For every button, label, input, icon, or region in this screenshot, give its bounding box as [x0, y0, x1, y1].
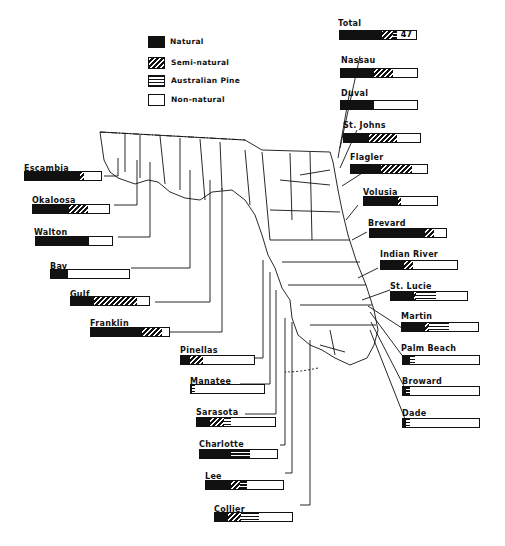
segment-natural [341, 69, 374, 77]
segment-non [393, 69, 417, 77]
county-bar-okaloosa [32, 204, 110, 214]
segment-natural [370, 229, 425, 237]
total-label: Total [338, 19, 361, 28]
segment-semi [231, 481, 240, 489]
county-label-dade: Dade [402, 409, 426, 418]
county-bar-martin [401, 322, 479, 332]
county-label-nassau: Nassau [341, 56, 376, 65]
segment-semi [404, 261, 413, 269]
county-bar-pinellas [180, 355, 255, 365]
segment-non [374, 101, 417, 109]
county-bar-bay [50, 269, 130, 279]
segment-natural [344, 134, 369, 142]
county-label-duval: Duval [341, 89, 368, 98]
segment-natural [351, 165, 381, 173]
segment-semi [142, 328, 162, 336]
segment-non [89, 237, 112, 245]
legend-semi-swatch [148, 57, 165, 69]
county-bar-volusia [363, 196, 438, 206]
county-bar-brevard [369, 228, 447, 238]
segment-semi [69, 205, 89, 213]
legend-semi-label: Semi-natural [171, 58, 229, 67]
segment-non [68, 270, 129, 278]
county-label-martin: Martin [401, 312, 432, 321]
county-bar-broward [402, 386, 480, 396]
segment-natural [33, 205, 69, 213]
segment-non [259, 513, 292, 521]
segment-non [434, 229, 446, 237]
segment-semi [374, 69, 392, 77]
segment-semi [94, 297, 137, 305]
segment-non [195, 385, 264, 393]
county-bar-stjohns [343, 133, 421, 143]
segment-non [397, 134, 420, 142]
segment-semi [381, 165, 411, 173]
segment-semi [382, 31, 393, 39]
legend-non-swatch [148, 94, 165, 106]
county-label-brevard: Brevard [368, 219, 406, 228]
segment-natural [364, 197, 398, 205]
county-label-broward: Broward [402, 377, 442, 386]
county-bar-indianriver [380, 260, 458, 270]
segment-pine [429, 323, 450, 331]
segment-natural [51, 270, 68, 278]
county-bar-manatee [190, 384, 265, 394]
county-bar-collier [214, 512, 293, 522]
legend-non-label: Non-natural [171, 95, 225, 104]
county-label-sarasota: Sarasota [196, 408, 238, 417]
legend-natural-swatch [148, 36, 165, 48]
legend-pine-swatch [148, 75, 165, 87]
segment-semi [190, 356, 203, 364]
segment-natural [91, 328, 142, 336]
segment-natural [215, 513, 228, 521]
county-bar-flagler [350, 164, 428, 174]
county-label-charlotte: Charlotte [199, 440, 244, 449]
segment-natural [25, 172, 80, 180]
segment-semi [369, 134, 397, 142]
county-bar-charlotte [199, 449, 278, 459]
legend-natural-label: Natural [170, 37, 204, 46]
total-bar: 47 [339, 30, 417, 40]
segment-natural [402, 323, 425, 331]
county-label-stjohns: St. Johns [343, 121, 386, 130]
segment-non [449, 323, 478, 331]
segment-non [162, 328, 169, 336]
segment-natural [197, 418, 210, 426]
county-label-flagler: Flagler [350, 153, 384, 162]
segment-non [137, 297, 149, 305]
segment-non [401, 197, 437, 205]
segment-natural [391, 292, 414, 300]
segment-pine [241, 513, 259, 521]
segment-non [247, 481, 283, 489]
segment-pine [231, 450, 250, 458]
segment-pine [224, 418, 232, 426]
county-bar-sarasota [196, 417, 276, 427]
segment-pine [416, 292, 436, 300]
segment-non [231, 418, 275, 426]
county-label-indianriver: Indian River [380, 250, 438, 259]
county-bar-stlucie [390, 291, 468, 301]
segment-natural [181, 356, 190, 364]
segment-non [84, 172, 101, 180]
county-label-stlucie: St. Lucie [390, 282, 432, 291]
segment-semi [425, 229, 433, 237]
segment-semi [210, 418, 223, 426]
segment-natural [403, 356, 410, 364]
county-bar-escambia [24, 171, 102, 181]
segment-natural [340, 31, 382, 39]
county-bar-gulf [70, 296, 150, 306]
county-label-pinellas: Pinellas [180, 346, 218, 355]
segment-non [250, 450, 277, 458]
segment-non [203, 356, 254, 364]
segment-non [88, 205, 109, 213]
segment-semi [228, 513, 241, 521]
county-bar-dade [402, 418, 480, 428]
legend-pine-label: Australian Pine [171, 76, 240, 85]
segment-natural [36, 237, 89, 245]
county-bar-palmbeach [402, 355, 480, 365]
segment-non [410, 387, 479, 395]
segment-natural [206, 481, 231, 489]
segment-non [410, 419, 479, 427]
segment-non [413, 261, 457, 269]
total-value: 47 [401, 30, 412, 39]
